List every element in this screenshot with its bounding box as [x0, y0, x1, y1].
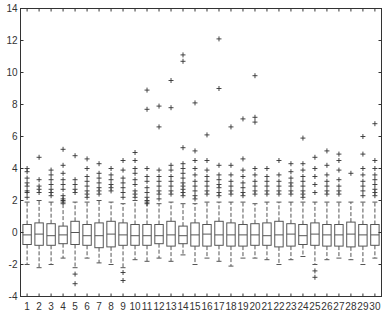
y-tick-label: -4 [9, 291, 18, 302]
outlier-marker [181, 59, 186, 64]
outlier-marker [252, 73, 257, 78]
outlier-marker [372, 182, 377, 187]
outlier-marker [49, 168, 54, 173]
plot-area [23, 36, 379, 286]
x-tick-label: 30 [369, 301, 381, 312]
box-iqr [47, 224, 55, 246]
box-11 [143, 88, 151, 262]
y-tick-label: 0 [12, 227, 18, 238]
outlier-marker [133, 182, 138, 187]
outlier-marker [193, 184, 198, 189]
x-tick-label: 24 [297, 301, 309, 312]
x-tick-label: 18 [225, 301, 237, 312]
outlier-marker [360, 166, 365, 171]
outlier-marker [252, 179, 257, 184]
x-tick-label: 15 [189, 301, 201, 312]
outlier-marker [49, 187, 54, 192]
outlier-marker [121, 190, 126, 195]
outlier-marker [204, 188, 209, 193]
outlier-marker [181, 52, 186, 57]
outlier-marker [312, 268, 317, 273]
outlier-marker [360, 188, 365, 193]
outlier-marker [276, 184, 281, 189]
box-14 [179, 52, 187, 255]
outlier-marker [264, 188, 269, 193]
outlier-marker [300, 174, 305, 179]
y-tick-label: 10 [6, 67, 18, 78]
outlier-marker [121, 195, 126, 200]
x-tick-label: 3 [48, 301, 54, 312]
outlier-marker [252, 166, 257, 171]
outlier-marker [121, 168, 126, 173]
box-iqr [119, 223, 127, 245]
x-tick-label: 25 [309, 301, 321, 312]
box-iqr [287, 224, 295, 246]
outlier-marker [85, 179, 90, 184]
outlier-marker [276, 188, 281, 193]
box-24 [299, 136, 307, 257]
outlier-marker [216, 86, 221, 91]
x-tick-label: 21 [261, 301, 273, 312]
outlier-marker [85, 174, 90, 179]
x-tick-label: 22 [273, 301, 285, 312]
outlier-marker [61, 182, 66, 187]
outlier-marker [157, 104, 162, 109]
outlier-marker [360, 152, 365, 157]
outlier-marker [157, 179, 162, 184]
outlier-marker [181, 145, 186, 150]
outlier-marker [145, 195, 150, 200]
outlier-marker [61, 171, 66, 176]
outlier-marker [240, 156, 245, 161]
outlier-marker [25, 180, 30, 185]
outlier-marker [169, 78, 174, 83]
outlier-marker [204, 168, 209, 173]
outlier-marker [336, 188, 341, 193]
outlier-marker [157, 168, 162, 173]
outlier-marker [228, 188, 233, 193]
outlier-marker [324, 184, 329, 189]
outlier-marker [181, 176, 186, 181]
outlier-marker [193, 148, 198, 153]
outlier-marker [204, 179, 209, 184]
y-tick-label: 2 [12, 195, 18, 206]
box-iqr [179, 226, 187, 244]
outlier-marker [264, 166, 269, 171]
outlier-marker [169, 179, 174, 184]
outlier-marker [73, 272, 78, 277]
outlier-marker [49, 182, 54, 187]
outlier-marker [204, 174, 209, 179]
outlier-marker [145, 174, 150, 179]
box-3 [47, 168, 55, 265]
outlier-marker [73, 153, 78, 158]
outlier-marker [97, 176, 102, 181]
box-15 [191, 100, 199, 264]
outlier-marker [228, 172, 233, 177]
outlier-marker [372, 121, 377, 126]
y-tick-label: 8 [12, 99, 18, 110]
outlier-marker [49, 172, 54, 177]
outlier-marker [348, 171, 353, 176]
outlier-marker [300, 184, 305, 189]
outlier-marker [61, 147, 66, 152]
outlier-marker [324, 188, 329, 193]
box-iqr [203, 225, 211, 247]
outlier-marker [336, 184, 341, 189]
outlier-marker [169, 163, 174, 168]
outlier-marker [157, 196, 162, 201]
outlier-marker [336, 177, 341, 182]
outlier-marker [133, 166, 138, 171]
box-27 [335, 152, 343, 259]
box-8 [107, 166, 115, 265]
outlier-marker [216, 36, 221, 41]
outlier-marker [169, 174, 174, 179]
outlier-marker [85, 188, 90, 193]
outlier-marker [372, 166, 377, 171]
outlier-marker [61, 177, 66, 182]
outlier-marker [312, 155, 317, 160]
outlier-marker [193, 179, 198, 184]
box-29 [359, 134, 367, 265]
outlier-marker [193, 166, 198, 171]
outlier-marker [61, 187, 66, 192]
outlier-marker [300, 136, 305, 141]
x-tick-label: 17 [213, 301, 225, 312]
